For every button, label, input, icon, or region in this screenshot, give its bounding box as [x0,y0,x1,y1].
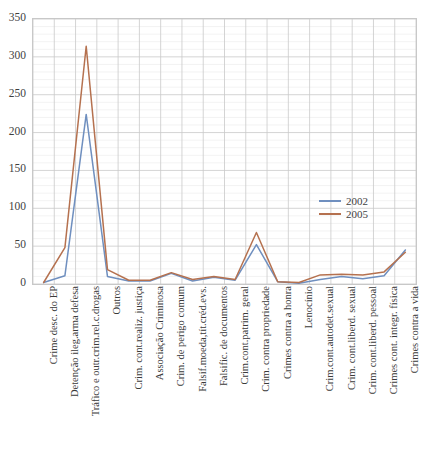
x-axis-tick: Crim. cont.liberd. pessoal [351,286,372,458]
legend-label: 2005 [346,208,368,220]
x-axis-tick-label: Crimes contra a vida [409,286,421,373]
y-axis-tick-label: 200 [9,126,26,137]
x-axis-tick: Detenção ileg.arma defesa [53,286,74,458]
x-axis-tick: Falsific. de documentos [202,286,223,458]
y-axis-tick-label: 100 [9,201,26,212]
y-axis-labels: 350300250200150100500 [0,0,30,300]
legend-item-2002[interactable]: 2002 [319,194,379,207]
x-axis-tick: Crimes contra a vida [394,286,415,458]
legend-swatch-icon [319,200,341,202]
legend-item-2005[interactable]: 2005 [319,207,379,220]
plot-svg [33,19,416,284]
y-axis-tick-label: 250 [9,88,26,99]
x-axis-tick: Associação Criminosa [138,286,159,458]
x-axis-tick: Crim. de perigo comum [160,286,181,458]
x-axis-labels: Crime desc. do EPDetenção ileg.arma defe… [32,286,417,461]
legend-swatch-icon [319,213,341,215]
x-axis-tick: Crim. contra propriedade [245,286,266,458]
x-axis-tick: Tráfico e outr.crim.rel.c.drogas [75,286,96,458]
x-axis-tick: Crime desc. do EP [32,286,53,458]
chart-title-sliver [0,0,427,11]
x-axis-tick: Crim. cont.realiz. justiça [117,286,138,458]
y-axis-tick-label: 150 [9,163,26,174]
x-axis-tick: Crim.cont.autodet.sexual [309,286,330,458]
y-axis-tick-label: 300 [9,50,26,61]
x-axis-tick: Outros [96,286,117,458]
x-axis-tick: Crim.cont.patrim. geral [224,286,245,458]
chart-legend: 20022005 [319,194,379,220]
x-axis-tick: Crimes cont. integr. física [372,286,393,458]
x-axis-tick: Falsif.moeda,tít.créd.evs. [181,286,202,458]
x-axis-tick: Crim. cont.liberd. sexual [330,286,351,458]
legend-label: 2002 [346,195,368,207]
y-axis-tick-label: 0 [20,277,26,288]
plot-area [32,18,417,285]
x-axis-tick: Lenocínio [287,286,308,458]
y-axis-tick-label: 350 [9,12,26,23]
x-axis-tick: Crimes contra a honra [266,286,287,458]
line-chart: 350300250200150100500 Crime desc. do EPD… [0,0,427,461]
y-axis-tick-label: 50 [15,239,27,250]
